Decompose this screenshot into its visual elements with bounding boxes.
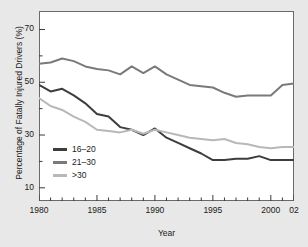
legend-item: >30 — [53, 169, 96, 182]
x-tick-label: 1995 — [197, 206, 229, 215]
legend-item: 21–30 — [53, 156, 96, 169]
legend-item: 16–20 — [53, 143, 96, 156]
legend-swatch-icon — [53, 174, 67, 177]
chart-figure: 10305070 Percentage of Fatally Injured D… — [0, 0, 308, 247]
x-tick-label: 1985 — [81, 206, 113, 215]
legend-swatch-icon — [53, 161, 67, 164]
x-axis-title: Year — [39, 228, 294, 238]
series-line->30 — [39, 98, 294, 148]
legend-label: 16–20 — [72, 145, 96, 154]
x-tick-label: 1980 — [23, 206, 55, 215]
legend-swatch-icon — [53, 148, 67, 151]
chart-legend: 16–2021–30>30 — [53, 143, 96, 182]
x-tick-label: 02 — [278, 206, 308, 215]
legend-label: 21–30 — [72, 158, 96, 167]
x-tick-label: 1990 — [139, 206, 171, 215]
y-axis-title: Percentage of Fatally Injured Drivers (%… — [14, 3, 24, 203]
series-line-21-30 — [39, 59, 294, 97]
legend-label: >30 — [72, 171, 86, 180]
